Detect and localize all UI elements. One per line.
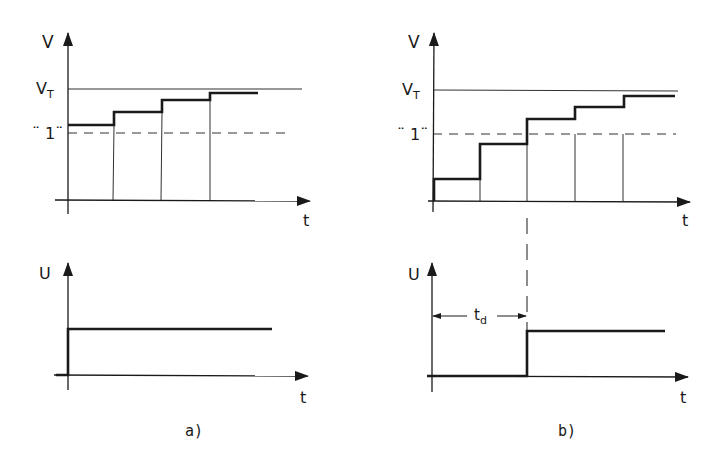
- logic-level-label: ¨ 1¨: [32, 124, 63, 143]
- x-axis-label: t: [300, 388, 306, 407]
- panel-b-output-plot: U t td: [408, 263, 688, 407]
- staircase-voltage: [434, 96, 675, 201]
- output-step: [427, 331, 665, 376]
- x-axis: [428, 201, 690, 202]
- delay-annotation: td: [433, 306, 526, 327]
- x-axis: [54, 375, 308, 376]
- threshold-label: VT: [402, 80, 420, 102]
- panel-a-voltage-plot: V t VT ¨ 1¨: [32, 32, 310, 230]
- panel-b-voltage-plot: V t VT ¨ 1¨: [397, 32, 690, 230]
- x-axis-label: t: [680, 388, 686, 407]
- panel-a-output-plot: U t: [39, 263, 308, 407]
- staircase-voltage: [68, 93, 258, 125]
- x-axis: [55, 200, 310, 201]
- y-axis-label: U: [408, 265, 420, 284]
- y-axis-label: V: [408, 32, 420, 52]
- threshold-line: [433, 90, 678, 91]
- delay-label: td: [474, 306, 487, 327]
- y-axis-label: V: [42, 32, 54, 52]
- caption-b: b): [558, 422, 576, 440]
- x-axis-label: t: [682, 211, 688, 230]
- verticals: [113, 100, 210, 200]
- x-axis-label: t: [303, 211, 309, 230]
- output-step: [56, 329, 272, 375]
- caption-a: a): [185, 422, 203, 440]
- logic-level-label: ¨ 1¨: [397, 125, 428, 144]
- figure-canvas: V t VT ¨ 1¨ V t VT ¨ 1¨: [0, 0, 720, 462]
- threshold-label: VT: [36, 79, 54, 101]
- y-axis-label: U: [39, 264, 51, 283]
